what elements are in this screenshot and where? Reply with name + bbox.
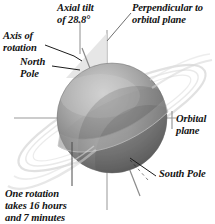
leader-axis-of-rotation — [45, 45, 82, 61]
axial-tilt-diagram: Axis of rotation Axial tilt of 28.8° Per… — [0, 0, 215, 224]
label-one-rotation-period: One rotation takes 16 hours and 7 minute… — [5, 188, 67, 223]
label-north-pole: North Pole — [20, 56, 45, 80]
label-axial-tilt: Axial tilt of 28.8° — [57, 2, 94, 26]
leader-perpendicular — [107, 13, 131, 41]
label-axis-of-rotation: Axis of rotation — [3, 30, 37, 54]
label-perpendicular-to-orbital-plane: Perpendicular to orbital plane — [132, 2, 203, 26]
label-orbital-plane: Orbital plane — [176, 113, 206, 137]
label-south-pole: South Pole — [159, 168, 206, 180]
